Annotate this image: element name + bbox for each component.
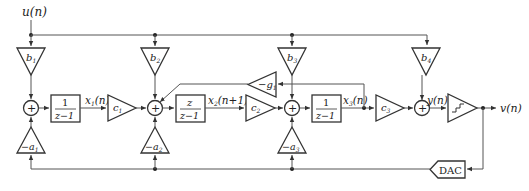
- integrator-3: 1 z−1: [312, 95, 341, 122]
- state-label-x1: x1(n): [85, 94, 110, 107]
- gain-g1: −g1: [248, 72, 277, 97]
- gain-a1: −a1: [17, 127, 45, 153]
- svg-text:+: +: [27, 102, 36, 115]
- integrator-2: z z−1: [176, 95, 205, 122]
- svg-text:z: z: [186, 97, 193, 108]
- gain-b4: b4: [412, 48, 440, 75]
- svg-text:1: 1: [323, 97, 329, 108]
- svg-text:+: +: [151, 102, 160, 115]
- top-bus-wire: [31, 35, 427, 45]
- gain-b3: b3: [278, 48, 306, 75]
- output-label: v(n): [500, 102, 522, 115]
- input-label: u(n): [22, 5, 47, 19]
- sum-node-2: +: [148, 101, 163, 116]
- gain-c3: c3: [376, 95, 404, 121]
- block-diagram: u(n) b1 b2 b3 b4 + + + +: [0, 0, 529, 191]
- svg-text:z−1: z−1: [315, 110, 335, 121]
- gain-a3: −a3: [278, 127, 306, 153]
- svg-text:+: +: [418, 102, 427, 115]
- gain-c2: c2: [246, 95, 275, 121]
- sum-node-1: +: [24, 101, 39, 116]
- sum-node-3: +: [285, 101, 300, 116]
- gain-b1: b1: [17, 48, 45, 75]
- svg-text:DAC: DAC: [439, 165, 462, 176]
- dac-block: DAC: [430, 161, 465, 178]
- quantizer-input-label: y(n): [426, 94, 448, 106]
- state-label-x2: x2(n+1): [208, 94, 248, 107]
- svg-text:z−1: z−1: [179, 110, 199, 121]
- wire: [467, 108, 483, 169]
- svg-text:+: +: [288, 102, 297, 115]
- gain-a2: −a2: [141, 127, 169, 153]
- svg-text:1: 1: [62, 97, 68, 108]
- integrator-1: 1 z−1: [51, 95, 80, 122]
- gain-c1: c1: [108, 95, 136, 121]
- gain-b2: b2: [141, 48, 169, 75]
- quantizer: [448, 94, 477, 122]
- svg-text:z−1: z−1: [54, 110, 74, 121]
